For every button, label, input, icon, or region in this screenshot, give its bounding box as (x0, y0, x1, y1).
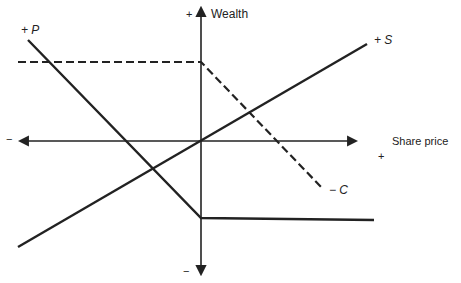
x-axis-minus-label: − (6, 134, 12, 145)
x-axis-label: Share price (392, 136, 448, 147)
x-axis-plus-label: + (378, 151, 384, 162)
series-label-s: + S (374, 34, 392, 46)
series-label-p: + P (21, 24, 39, 36)
y-axis-minus-label: − (183, 266, 189, 277)
series-label-c: − C (329, 184, 348, 196)
y-axis-label: Wealth (211, 8, 248, 20)
y-axis-plus-label: + (186, 9, 192, 20)
call-line-c (18, 62, 322, 188)
stock-line-s (18, 44, 367, 247)
